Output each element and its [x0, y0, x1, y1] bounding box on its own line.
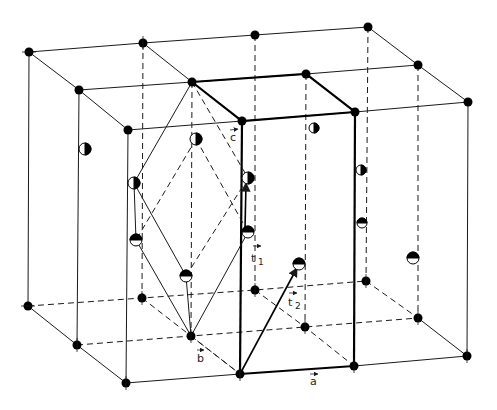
svg-text:t: t	[288, 296, 293, 309]
t2-vector	[240, 268, 297, 374]
half-atoms-horizontal-split	[130, 218, 419, 282]
label-a: a	[310, 374, 318, 388]
svg-text:1: 1	[258, 257, 264, 267]
svg-text:a: a	[310, 375, 317, 388]
half-atoms-vertical-split	[79, 123, 366, 189]
half-atom	[242, 172, 254, 184]
half-atom	[79, 143, 91, 155]
half-atom	[190, 133, 202, 145]
crystal-lattice-diagram: c t 1 t 2 b a	[0, 0, 497, 410]
half-atom	[130, 234, 142, 246]
half-atom	[293, 258, 305, 270]
label-t2: t 2	[288, 293, 301, 311]
label-t1: t 1	[251, 246, 264, 267]
svg-text:2: 2	[295, 301, 301, 311]
unit-cell-bold-edges	[192, 74, 355, 374]
hexagonal-lattice-solid-edges	[28, 27, 468, 383]
half-atom	[357, 218, 367, 228]
svg-text:b: b	[197, 352, 204, 365]
half-atom	[356, 165, 366, 175]
label-b: b	[197, 350, 204, 365]
label-c: c	[230, 129, 238, 144]
t1-vector	[245, 183, 246, 229]
half-atom	[180, 270, 192, 282]
half-atom	[309, 123, 319, 133]
half-atom	[407, 252, 419, 264]
half-atom	[128, 177, 140, 189]
svg-text:c: c	[230, 131, 236, 144]
half-atom	[242, 226, 254, 238]
translation-vectors	[240, 183, 297, 374]
svg-text:t: t	[251, 252, 256, 265]
